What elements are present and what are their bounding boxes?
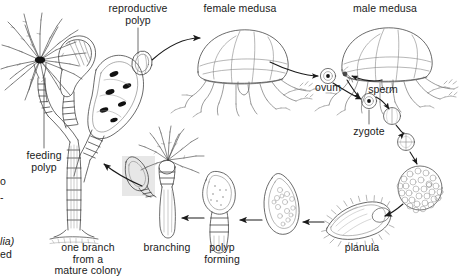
label-female-medusa: female medusa [180,3,300,15]
morula-illustration [397,166,443,213]
arrow-polyp-to-female-medusa [152,38,200,60]
female-medusa-illustration [171,30,319,117]
arrow-four-cell-to-morula [410,152,417,164]
reproductive-polyp-illustration [80,49,154,160]
feeding-polyp-illustration [1,13,86,116]
label-sperm: sperm [355,84,411,96]
label-zygote: zygote [341,126,397,138]
clipped-label-fragment-mid: - [0,192,14,204]
label-reproductive-polyp: reproductive polyp [93,3,183,26]
arrow-morula-to-planula [385,204,403,216]
arrow-zygote-to-two-cell [376,97,389,109]
clipped-label-fragment-top: o [0,176,14,188]
male-medusa-illustration [315,28,458,115]
label-planula: planula [330,242,394,254]
settled-planula-illustration [264,174,299,235]
arrow-branching-to-colony [104,164,142,186]
zygote-illustration [361,93,376,108]
planula-illustration [322,195,394,247]
diagram-artwork [0,0,460,277]
life-cycle-diagram: reproductive polyp female medusa male me… [0,0,460,277]
label-ovum: ovum [300,82,356,94]
clipped-label-fragment-genus: lia) [0,236,26,248]
branching-illustration [125,126,204,238]
label-male-medusa: male medusa [330,3,440,15]
two-cell-stage-illustration [384,108,401,125]
label-feeding-polyp: feeding polyp [8,150,80,173]
arrow-female-to-ovum [270,62,318,76]
label-one-branch-mature-colony: one branch from a mature colony [39,242,137,277]
clipped-label-fragment-bottom: ed [0,249,24,261]
four-cell-stage-illustration [398,134,415,151]
label-branching: branching [132,242,202,254]
medusa-bud-illustration [59,36,96,128]
arrow-two-to-four-cell [396,125,404,133]
